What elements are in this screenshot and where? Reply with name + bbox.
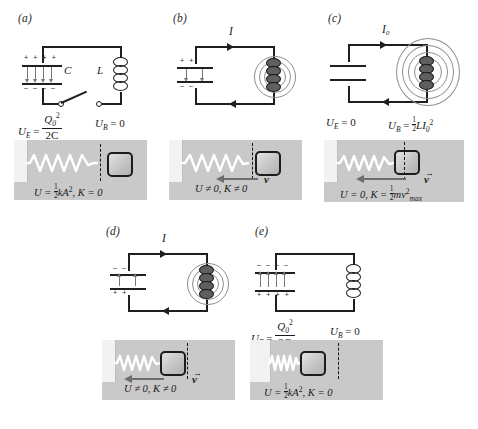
energy-electric-sub-c: E: [334, 122, 339, 131]
wire-left-lower-d: [128, 295, 130, 311]
wire-top-c: [348, 44, 428, 46]
equals-sign: =: [87, 187, 94, 198]
energy-electric-symbol-a: U: [18, 125, 26, 137]
panel-b: (b) I + + – –: [155, 0, 315, 210]
energy-electric-c: UE = 0: [326, 116, 356, 131]
circuit-e: – – – – + + + +: [245, 215, 415, 325]
spring-panel-c: →v U = 0, K = 12mv2max: [324, 140, 464, 202]
spring-coil-a: [26, 152, 98, 174]
equals-sign: =: [317, 387, 324, 398]
coil-loop: [113, 81, 128, 91]
energy-magnetic-value-e: 0: [354, 325, 360, 337]
energy-electric-fraction-a: Q02 2C: [42, 112, 61, 142]
switch-contact-right-a[interactable]: [96, 101, 102, 107]
caption-U-a: U: [34, 187, 42, 198]
efield-arrow-a1: [27, 67, 28, 79]
wire-right-lower-b: [273, 92, 275, 104]
capacitor-c: [330, 57, 366, 87]
capacitor-top-charge-d: – –: [113, 264, 128, 271]
spring-coil-b: [181, 152, 249, 174]
wire-right-lower-a: [120, 92, 122, 104]
equilibrium-line-d: [187, 343, 188, 379]
spring-block-a: [107, 152, 133, 177]
equals-sign: =: [380, 189, 387, 200]
capacitor-bottom-charge-a: – – – –: [24, 84, 57, 91]
efield-arrow-e3: [276, 275, 277, 287]
equals-sign: =: [274, 387, 281, 398]
current-arrow-top-c: [380, 41, 387, 49]
energy-magnetic-a: UB = 0: [95, 117, 125, 132]
spring-panel-b: →v U ≠ 0, K ≠ 0: [169, 140, 302, 200]
energy-num-sub-e: 0: [285, 326, 289, 335]
energy-num-sub-a: 0: [52, 119, 56, 128]
efield-arrow-d1: [119, 277, 120, 286]
wire-right-lower-c: [426, 90, 428, 102]
wire-top-a: [42, 46, 122, 48]
efield-arrow-e4: [284, 275, 285, 287]
equals-sign: =: [44, 187, 51, 198]
efield-arrow-b1: [186, 69, 187, 78]
inductor-label-a: L: [97, 64, 103, 76]
energy-magnetic-value-a: 0: [119, 117, 125, 129]
panel-e: (e) – – – – + + + + UE = Q02 2: [245, 215, 415, 429]
switch-blade-a[interactable]: [61, 91, 87, 104]
coil-loop: [346, 288, 361, 298]
spring-panel-e: U = 12kA2, K = 0: [250, 340, 383, 400]
vector-arrow-b: →: [265, 168, 274, 178]
equals-sign: =: [341, 116, 347, 128]
circuit-b: I + + – –: [155, 0, 315, 120]
spring-caption-a: U = 12kA2, K = 0: [34, 183, 102, 200]
panel-a: (a) + + + + – – – – C L: [0, 0, 160, 210]
efield-arrow-e2: [268, 275, 269, 287]
caption-U-value-c: 0: [360, 189, 365, 200]
circuit-a: + + + + – – – – C L: [0, 0, 160, 120]
equals-sign: =: [33, 125, 39, 137]
equals-sign: =: [345, 325, 351, 337]
current-label-b: I: [229, 25, 233, 37]
spring-coil-c: [336, 152, 394, 174]
panel-c: (c) I₀ UE = 0: [310, 0, 478, 210]
efield-arrow-a4: [51, 67, 52, 79]
efield-arrow-e1: [260, 275, 261, 287]
coil-loop: [199, 289, 214, 299]
efield-arrow-a2: [35, 67, 36, 79]
spring-caption-d: U ≠ 0, K ≠ 0: [124, 383, 176, 394]
caption-K-e: K: [308, 387, 315, 398]
capacitor-bottom-plate-c: [330, 79, 366, 81]
coil-loop: [419, 80, 434, 90]
energy-electric-symbol-c: U: [326, 116, 334, 128]
circuit-d: I – – + +: [100, 215, 260, 325]
spring-caption-c: U = 0, K = 12mv2max: [340, 185, 422, 202]
equilibrium-line-e: [338, 343, 339, 379]
wire-bottom-e: [275, 310, 355, 312]
wire-top-d: [128, 253, 208, 255]
capacitor-top-plate-a: [22, 65, 62, 67]
capacitor-b: + + – –: [177, 59, 213, 89]
wire-right-lower-d: [206, 299, 208, 311]
equilibrium-line-b: [252, 143, 253, 179]
spring-coil-d: [114, 352, 160, 374]
velocity-arrow-b: [224, 178, 258, 180]
capacitor-e: – – – – + + + +: [255, 263, 295, 297]
capacitor-top-charge-e: – – – –: [257, 261, 290, 268]
velocity-label-c: →v: [424, 173, 429, 185]
capacitor-label-a: C: [64, 64, 71, 76]
energy-electric-sub-a: E: [26, 131, 31, 140]
energy-num-sup-a: 2: [56, 111, 60, 120]
current-arrow-top-b: [227, 43, 234, 51]
energy-magnetic-symbol-c: U: [388, 119, 396, 131]
energy-magnetic-sub-a: B: [103, 123, 108, 132]
current-arrow-bottom-d: [162, 307, 169, 315]
spring-panel-d: →v U ≠ 0, K ≠ 0: [102, 340, 235, 400]
capacitor-d: – – + +: [110, 266, 146, 296]
capacitor-top-charge-b: + +: [180, 57, 195, 64]
equals-sign: =: [403, 119, 409, 131]
spring-block-c: [394, 150, 420, 175]
caption-m-c: m: [394, 189, 402, 200]
capacitor-top-charge-a: + + + +: [24, 54, 57, 61]
energy-magnetic-sub-e: B: [338, 331, 343, 340]
capacitor-bottom-charge-d: + +: [113, 289, 128, 296]
efield-arrow-d2: [135, 277, 136, 286]
efield-arrow-a3: [43, 67, 44, 79]
wire-top-e: [275, 253, 355, 255]
